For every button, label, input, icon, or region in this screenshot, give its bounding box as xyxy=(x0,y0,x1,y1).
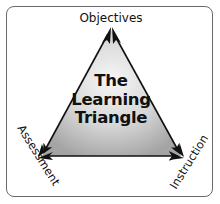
label-objectives: Objectives xyxy=(79,11,142,25)
title-line-2: Learning xyxy=(60,91,162,110)
diagram-title: The Learning Triangle xyxy=(60,72,162,128)
title-line-1: The xyxy=(60,72,162,91)
title-line-3: Triangle xyxy=(60,109,162,128)
